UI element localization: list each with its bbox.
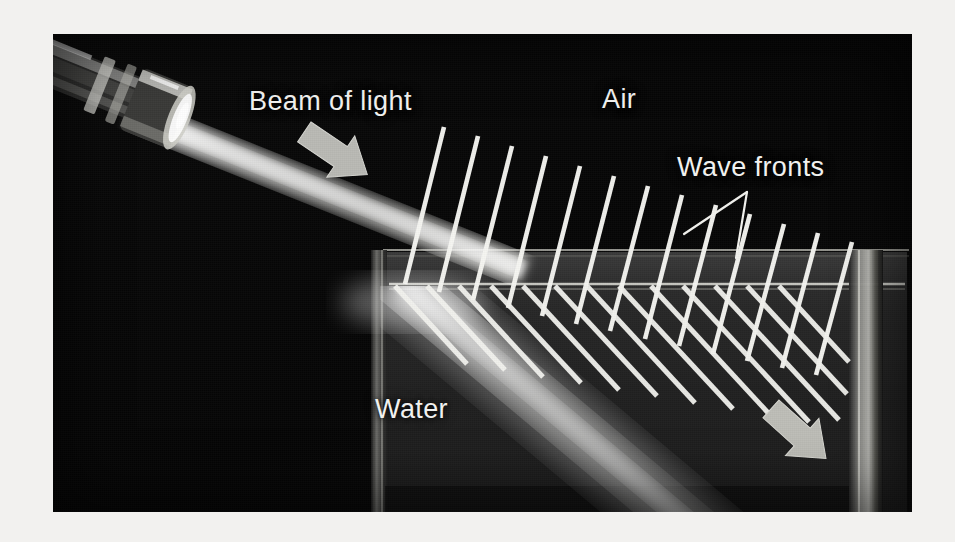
annotation-layer <box>53 34 912 512</box>
refraction-photograph: Beam of light Air Wave fronts Water <box>53 34 912 512</box>
refracted-beam-direction-arrow <box>754 390 842 477</box>
wave-fronts-leader <box>684 192 747 258</box>
beam-direction-arrow <box>290 111 381 195</box>
page-background: Beam of light Air Wave fronts Water <box>0 0 955 542</box>
